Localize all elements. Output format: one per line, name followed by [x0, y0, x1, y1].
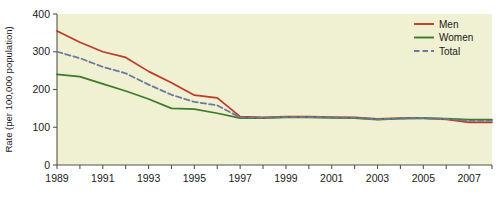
- legend-label-women: Women: [439, 32, 473, 43]
- x-tick-label: 1989: [45, 172, 69, 184]
- legend-label-total: Total: [439, 46, 460, 57]
- y-tick-label: 200: [32, 83, 50, 95]
- x-tick-label: 2005: [412, 172, 436, 184]
- chart-canvas: 0100200300400198919911993199519971999200…: [0, 0, 504, 206]
- line-chart: 0100200300400198919911993199519971999200…: [0, 0, 504, 206]
- x-tick-label: 1991: [91, 172, 115, 184]
- series-line-men: [57, 31, 492, 122]
- x-tick-label: 1993: [137, 172, 161, 184]
- x-tick-label: 1997: [228, 172, 252, 184]
- x-tick-label: 2001: [320, 172, 344, 184]
- legend-label-men: Men: [439, 19, 458, 30]
- y-tick-label: 100: [32, 121, 50, 133]
- series-line-total: [57, 52, 492, 121]
- x-tick-label: 2007: [457, 172, 481, 184]
- y-axis-label: Rate (per 100,000 population): [3, 26, 14, 152]
- y-tick-label: 0: [44, 159, 50, 171]
- y-tick-label: 300: [32, 45, 50, 57]
- x-tick-label: 1999: [274, 172, 298, 184]
- x-tick-label: 2003: [366, 172, 390, 184]
- series-line-women: [57, 74, 492, 119]
- y-tick-label: 400: [32, 8, 50, 20]
- x-tick-label: 1995: [183, 172, 207, 184]
